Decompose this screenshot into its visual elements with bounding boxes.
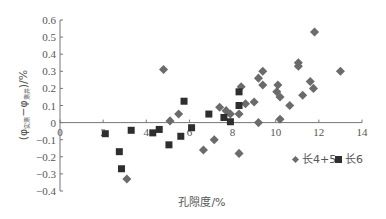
square-point [181, 98, 188, 105]
square-point [128, 127, 135, 134]
svg-text:(φ实测−φ测井)/%: (φ实测−φ测井)/% [17, 70, 31, 141]
legend: 长4+5 长6 [292, 153, 363, 166]
x-tick-label: 8 [230, 126, 236, 138]
scatter-chart: −0.4−0.3−0.2−0.100.10.20.30.40.50.6 0246… [0, 0, 386, 219]
square-point [236, 102, 243, 109]
legend-square-marker [335, 156, 342, 163]
y-tick-label: −0.2 [36, 151, 56, 163]
diamond-point [122, 175, 131, 184]
y-tick-label: 0.5 [42, 31, 56, 43]
square-point [205, 111, 212, 118]
x-tick-label: 12 [313, 126, 324, 138]
square-point [188, 124, 195, 131]
y-tick-label: −0.3 [36, 168, 56, 180]
diamond-point [165, 116, 174, 125]
diamond-point [250, 98, 259, 107]
diamond-point [159, 65, 168, 74]
diamond-point [258, 67, 267, 76]
diamond-point [285, 101, 294, 110]
diamond-point [210, 135, 219, 144]
square-point [102, 130, 109, 137]
x-tick-label: 10 [270, 126, 282, 138]
y-axis: −0.4−0.3−0.2−0.100.10.20.30.40.50.6 [36, 14, 63, 197]
square-point [149, 129, 156, 136]
y-tick-label: 0.4 [42, 48, 56, 60]
diamond-point [235, 149, 244, 158]
diamond-point [310, 27, 319, 36]
legend-diamond-marker [292, 156, 299, 163]
x-tick-label: 0 [57, 126, 63, 138]
square-point [118, 165, 125, 172]
square-point [116, 148, 123, 155]
diamond-point [174, 110, 183, 119]
y-tick-label: 0.1 [42, 100, 56, 112]
diamond-point [254, 74, 263, 83]
y-tick-label: 0.6 [42, 14, 56, 26]
square-point [156, 126, 163, 133]
x-tick-label: 14 [357, 126, 369, 138]
square-point [236, 88, 243, 95]
y-tick-label: −0.4 [36, 185, 56, 197]
legend-label-chang45: 长4+5 [302, 153, 336, 166]
diamond-point [298, 91, 307, 100]
y-tick-label: 0.2 [42, 82, 56, 94]
diamond-point [254, 118, 263, 127]
diamond-point [199, 145, 208, 154]
x-axis-title: 孔隙度/% [178, 195, 225, 209]
x-tick-label: 4 [144, 126, 150, 138]
y-tick-label: 0.3 [42, 65, 56, 77]
diamond-point [336, 67, 345, 76]
y-tick-label: −0.1 [36, 134, 56, 146]
square-point [177, 133, 184, 140]
diamond-point [273, 80, 282, 89]
diamond-point [258, 80, 267, 89]
square-point [220, 114, 227, 121]
legend-label-chang6: 长6 [345, 153, 363, 166]
square-point [227, 118, 234, 125]
y-axis-title: (φ实测−φ测井)/% [17, 70, 31, 141]
square-point [165, 141, 172, 148]
y-tick-label: 0 [51, 117, 57, 129]
diamond-point [235, 110, 244, 119]
